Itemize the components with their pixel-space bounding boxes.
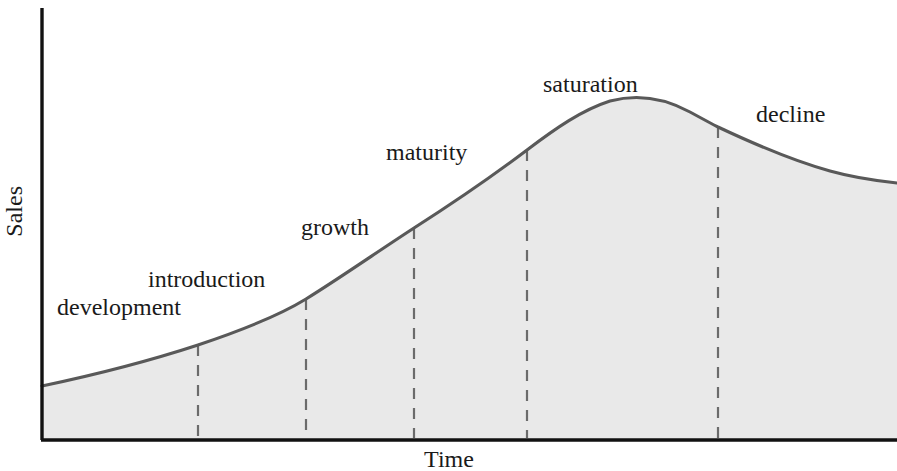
product-life-cycle-chart: Sales Time development introduction grow… <box>0 0 897 471</box>
stage-label-maturity: maturity <box>386 140 467 164</box>
stage-label-growth: growth <box>301 215 369 239</box>
stage-label-decline: decline <box>756 102 825 126</box>
stage-label-saturation: saturation <box>543 72 638 96</box>
chart-plot-area <box>0 0 897 471</box>
stage-label-development: development <box>57 295 181 319</box>
y-axis-title: Sales <box>2 186 26 237</box>
x-axis-title: Time <box>424 447 474 471</box>
stage-label-introduction: introduction <box>148 267 265 291</box>
